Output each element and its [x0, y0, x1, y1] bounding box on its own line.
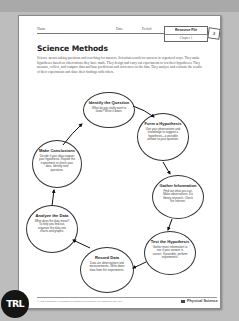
bubble-title: Record Data [81, 255, 133, 260]
name-label: Name [37, 27, 46, 31]
bubble-make-conclusions: Make Conclusions Decide if your data sup… [32, 140, 82, 188]
intro-paragraph: Science means asking questions and searc… [37, 56, 205, 74]
copyright-notice: ©AGS Publishing. Permission is granted t… [37, 300, 123, 303]
bubble-body: Find out what you can. Make observations… [161, 190, 195, 204]
bubble-analyze-data: Analyze the Data What does the data mean… [26, 205, 78, 253]
bubble-title: Identify the Question [84, 100, 134, 105]
trl-logo: TRL [1, 290, 29, 318]
bubble-test-hypothesis: Test the Hypothesis Gather more informat… [144, 231, 196, 275]
bubble-gather-information: Gather Information Find out what you can… [152, 175, 204, 219]
bubble-body: What do you really want to know? Write i… [91, 107, 127, 114]
bubble-body: Use your observations and knowledge to s… [145, 128, 181, 142]
chapter-label: Chapter 1 [165, 35, 207, 42]
footer-rule [37, 297, 217, 298]
bubble-body: Decide if your data support your hypothe… [39, 155, 75, 173]
bubble-form-hypothesis: Form a Hypothesis Use your observations … [137, 113, 189, 161]
book-title-text: Physical Science [187, 299, 218, 303]
bubble-title: Analyze the Data [27, 213, 77, 218]
date-label: Date [116, 27, 123, 31]
bubble-title: Make Conclusions [33, 148, 81, 153]
book-title: Physical Science [181, 299, 218, 303]
bubble-record-data: Record Data Data are observations and me… [80, 247, 134, 293]
bubble-title: Gather Information [153, 183, 203, 188]
bubble-body: Data are observations and measurements. … [88, 262, 126, 273]
bubble-identify-question: Identify the Question What do you really… [83, 92, 135, 128]
background-band [0, 0, 239, 12]
period-label: Period [142, 27, 151, 31]
resource-number-tab: 3 [207, 27, 220, 40]
worksheet-page: Name Date Period Resource File Chapter 1… [18, 15, 221, 309]
book-icon [181, 300, 185, 303]
bubble-title: Form a Hypothesis [138, 121, 188, 126]
bubble-body: What does the data mean? To help you fin… [34, 220, 70, 234]
page-title: Science Methods [37, 44, 108, 53]
resource-file-title: Resource File [165, 27, 207, 35]
resource-file-box: Resource File Chapter 1 [164, 26, 208, 42]
bubble-title: Test the Hypothesis [145, 239, 195, 244]
bubble-body: Gather more information to see if your a… [152, 246, 188, 260]
